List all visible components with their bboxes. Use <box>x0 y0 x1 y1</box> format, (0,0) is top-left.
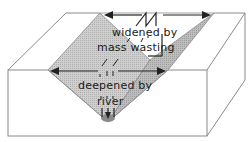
label-deepened-by: deepened by <box>78 79 152 92</box>
valley-diagram: widened by mass wasting deepened by rive… <box>0 0 252 142</box>
label-widened-by: widened by <box>112 26 178 39</box>
label-mass-wasting: mass wasting <box>97 41 175 54</box>
label-river: river <box>97 95 124 108</box>
right-side-face <box>207 13 245 136</box>
top-right-edge <box>207 13 245 70</box>
